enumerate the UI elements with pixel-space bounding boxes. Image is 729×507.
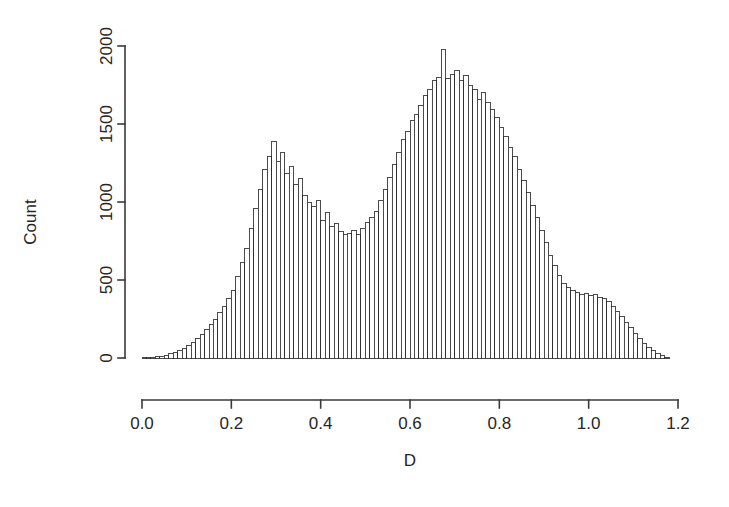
x-axis: 0.00.20.40.60.81.01.2: [130, 400, 690, 433]
histogram-bar: [289, 166, 293, 358]
histogram-bar: [236, 277, 240, 358]
histogram-bar: [575, 292, 579, 358]
plot-canvas: 0500100015002000 0.00.20.40.60.81.01.2 D…: [0, 0, 729, 507]
histogram-bar: [428, 90, 432, 358]
histogram-bar: [383, 190, 387, 358]
histogram-bar: [325, 213, 329, 358]
histogram-bar: [486, 102, 490, 358]
histogram-bar: [464, 76, 468, 358]
histogram-bar: [240, 263, 244, 358]
y-tick-label: 0: [97, 353, 116, 362]
histogram-bar: [508, 147, 512, 358]
histogram-bar: [437, 77, 441, 358]
histogram-bar: [370, 218, 374, 358]
y-axis: 0500100015002000: [97, 27, 125, 363]
x-axis-title: D: [404, 451, 416, 470]
histogram-bar: [566, 288, 570, 358]
histogram-bar: [410, 121, 414, 358]
histogram-bar: [267, 157, 271, 358]
histogram-bar: [307, 202, 311, 358]
histogram-bar: [441, 50, 445, 358]
histogram-bar: [258, 190, 262, 358]
histogram-bar: [414, 115, 418, 358]
histogram-bar: [330, 227, 334, 358]
histogram-bar: [459, 80, 463, 358]
histogram-bar: [191, 342, 195, 358]
histogram-bar: [227, 299, 231, 358]
histogram-bar: [249, 229, 253, 358]
histogram-bar: [624, 322, 628, 358]
histogram-bar: [557, 275, 561, 358]
x-tick-label: 0.8: [488, 414, 512, 433]
histogram-bar: [352, 230, 356, 358]
histogram-bar: [205, 329, 209, 358]
y-tick-label: 1500: [97, 105, 116, 143]
histogram-bar: [660, 356, 664, 358]
histogram-bar: [615, 311, 619, 358]
x-tick-label: 0.2: [220, 414, 244, 433]
histogram-bar: [294, 185, 298, 358]
histogram-bar: [276, 161, 280, 358]
histogram-bar: [200, 334, 204, 358]
y-tick-label: 2000: [97, 27, 116, 65]
histogram-bar: [553, 266, 557, 358]
histogram-bar: [365, 222, 369, 358]
histogram-bar: [155, 357, 159, 358]
histogram-bar: [218, 313, 222, 358]
histogram-bar: [285, 174, 289, 358]
histogram-bar: [169, 354, 173, 358]
histogram-bar: [562, 283, 566, 358]
histogram-bar: [499, 127, 503, 358]
histogram-bar: [647, 347, 651, 358]
histogram-bar: [638, 339, 642, 359]
histogram-bar: [231, 291, 235, 358]
histogram-bar: [254, 208, 258, 358]
histogram-bar: [187, 346, 191, 358]
histogram-bar: [593, 295, 597, 358]
y-tick-label: 1000: [97, 183, 116, 221]
histogram-bar: [406, 132, 410, 358]
histogram-bar: [374, 211, 378, 358]
histogram-bar: [611, 307, 615, 358]
histogram-bars: [142, 50, 669, 358]
histogram-bar: [312, 207, 316, 358]
histogram-bar: [602, 299, 606, 358]
histogram-bar: [334, 224, 338, 358]
histogram-bar: [468, 85, 472, 358]
histogram-bar: [356, 235, 360, 358]
histogram-bar: [517, 169, 521, 358]
histogram-bar: [548, 255, 552, 358]
histogram-bar: [164, 355, 168, 358]
histogram-bar: [401, 140, 405, 358]
histogram-bar: [656, 354, 660, 358]
histogram-bar: [473, 90, 477, 358]
histogram-bar: [339, 232, 343, 358]
histogram-bar: [665, 357, 669, 358]
histogram-bar: [607, 302, 611, 358]
histogram-bar: [633, 333, 637, 358]
histogram-bar: [209, 324, 213, 358]
histogram-bar: [160, 356, 164, 358]
histogram-bar: [584, 293, 588, 358]
histogram-bar: [481, 93, 485, 358]
histogram-bar: [178, 351, 182, 358]
histogram-bar: [522, 180, 526, 358]
histogram-bar: [196, 339, 200, 359]
histogram-bar: [151, 357, 155, 358]
histogram-bar: [321, 221, 325, 358]
histogram-bar: [526, 193, 530, 358]
histogram-bar: [392, 165, 396, 358]
histogram-bar: [361, 229, 365, 358]
histogram-bar: [544, 243, 548, 358]
histogram-bar: [432, 80, 436, 358]
histogram-bar: [651, 351, 655, 358]
histogram-bar: [490, 110, 494, 358]
histogram-bar: [263, 169, 267, 358]
histogram-bar: [245, 249, 249, 358]
histogram-bar: [580, 294, 584, 358]
histogram-bar: [182, 348, 186, 358]
histogram-bar: [173, 353, 177, 358]
x-tick-label: 0.6: [398, 414, 422, 433]
histogram-bar: [316, 200, 320, 358]
histogram-bar: [423, 96, 427, 358]
